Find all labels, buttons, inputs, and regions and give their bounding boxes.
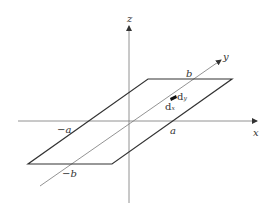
x-axis-label: x	[253, 128, 259, 138]
dy-label: dy	[177, 92, 187, 102]
tick-pos-a: a	[170, 126, 176, 136]
z-axis-label: z	[127, 14, 132, 24]
diagram-svg	[0, 0, 273, 211]
tick-neg-b: −b	[62, 169, 77, 179]
rectangular-plate	[28, 79, 232, 164]
diagram-canvas: z y x b −a a −b dx dy	[0, 0, 273, 211]
tick-pos-b: b	[186, 69, 192, 79]
dx-label: dx	[165, 102, 175, 112]
y-axis-label: y	[223, 52, 229, 62]
tick-neg-a: −a	[57, 125, 71, 135]
dy-sub: y	[183, 94, 186, 101]
dx-sub: x	[171, 104, 174, 111]
